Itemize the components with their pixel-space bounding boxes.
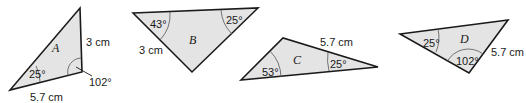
triangles-diagram: A 3 cm 5.7 cm 25° 102° B 43° 25° 3 cm C … [0,0,526,103]
triangle-b-label: B [189,33,197,47]
triangle-c-angle-25: 25° [330,58,347,70]
triangle-a-angle-102: 102° [89,76,112,88]
triangle-b-angle-25: 25° [226,14,243,26]
triangle-d-angle-102: 102° [456,55,479,67]
triangle-a-side-3cm: 3 cm [86,36,110,48]
triangle-c: C 53° 25° 5.7 cm [241,36,378,80]
triangle-c-angle-53: 53° [262,66,279,78]
triangle-c-label: C [293,53,302,67]
triangle-a: A 3 cm 5.7 cm 25° 102° [10,8,112,103]
triangle-c-side-5-7cm: 5.7 cm [320,36,353,48]
triangle-d-angle-25: 25° [423,37,440,49]
triangle-a-shape [10,8,82,90]
triangle-d: D 25° 102° 5.7 cm [400,20,524,73]
triangle-d-side-5-7cm: 5.7 cm [491,46,524,58]
triangle-b-angle-43: 43° [150,18,167,30]
triangle-a-side-5-7cm: 5.7 cm [30,91,63,103]
triangle-b: B 43° 25° 3 cm [133,8,258,72]
triangle-b-side-3cm: 3 cm [139,44,163,56]
triangle-a-label: A [51,41,60,55]
triangle-d-label: D [459,32,469,46]
triangle-a-angle-25: 25° [29,68,46,80]
